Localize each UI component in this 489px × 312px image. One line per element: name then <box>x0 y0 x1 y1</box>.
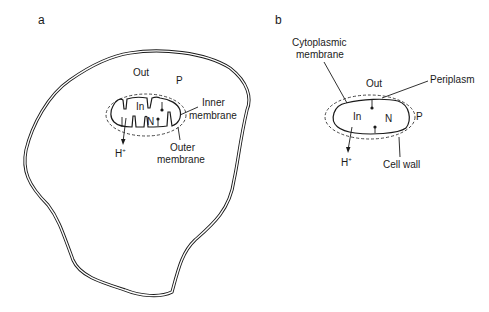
periplasm-leader <box>382 81 428 98</box>
mitochondrion-inner-membrane <box>111 97 181 127</box>
inner-membrane-label-line1: Inner <box>202 97 225 108</box>
panel-b-label: b <box>275 13 282 27</box>
out-label-b: Out <box>366 78 382 89</box>
eukaryotic-cell-outline <box>25 51 249 296</box>
p-label-b: P <box>416 111 423 122</box>
cytoplasmic-membrane-leader <box>324 62 347 103</box>
cytoplasmic-membrane <box>333 99 409 134</box>
p-label-a: P <box>176 75 183 86</box>
arrowhead-icon <box>121 139 126 145</box>
cytoplasmic-membrane-label-line1: Cytoplasmic <box>292 37 346 48</box>
arrowhead-icon <box>346 147 351 153</box>
protein-dot-bottom-b <box>373 125 376 128</box>
periplasm-label: Periplasm <box>430 74 474 85</box>
cell-wall-leader <box>399 137 400 157</box>
in-label-a: In <box>136 101 144 112</box>
protein-dot-bottom <box>156 117 159 120</box>
n-label-a: N <box>147 116 154 127</box>
outer-membrane-leader <box>178 127 180 140</box>
proton-label-b: H+ <box>341 156 352 168</box>
membrane-topology-diagram: a Out P In N H+ Inner membrane Outer mem… <box>0 0 489 312</box>
panel-b: b Cytoplasmic membrane Out Periplasm In … <box>275 13 474 170</box>
panel-a: a Out P In N H+ Inner membrane Outer mem… <box>25 13 249 296</box>
outer-membrane-label-line2: membrane <box>157 154 205 165</box>
in-label-b: In <box>353 111 361 122</box>
protein-dot-top-b <box>370 106 373 109</box>
out-label-a: Out <box>133 67 149 78</box>
proton-label-a: H+ <box>115 147 126 159</box>
cytoplasmic-membrane-label-line2: membrane <box>296 49 344 60</box>
cell-wall-label: Cell wall <box>383 159 420 170</box>
proton-arrow-b <box>348 127 352 150</box>
cell-wall <box>325 95 415 139</box>
panel-a-label: a <box>38 13 45 27</box>
protein-dot-top <box>160 108 163 111</box>
inner-membrane-label-line2: membrane <box>189 110 237 121</box>
outer-membrane-label-line1: Outer <box>170 142 196 153</box>
proton-arrow-a <box>123 118 126 142</box>
n-label-b: N <box>385 113 392 124</box>
